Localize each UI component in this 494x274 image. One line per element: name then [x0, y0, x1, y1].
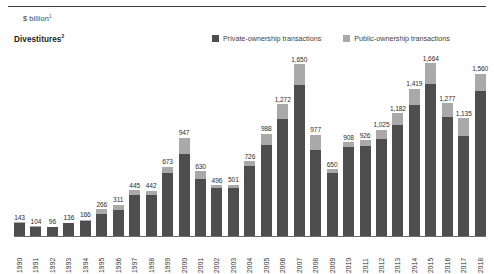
bar-column[interactable]: 104 [30, 52, 41, 237]
bar-stack[interactable] [228, 185, 239, 237]
x-axis-tick-label: 2009 [329, 239, 336, 273]
bar-segment-public[interactable] [277, 104, 288, 119]
bar-stack[interactable] [129, 190, 140, 237]
bar-segment-private[interactable] [261, 145, 272, 237]
bar-segment-private[interactable] [14, 223, 25, 237]
bar-segment-private[interactable] [228, 188, 239, 237]
bar-segment-public[interactable] [195, 171, 206, 179]
bar-segment-public[interactable] [310, 135, 321, 150]
bar-stack[interactable] [376, 130, 387, 237]
bar-column[interactable]: 501 [228, 52, 239, 237]
bar-segment-private[interactable] [211, 188, 222, 237]
bar-segment-private[interactable] [475, 91, 486, 237]
bar-segment-private[interactable] [425, 84, 436, 238]
bar-column[interactable]: 496 [211, 52, 222, 237]
bar-column[interactable]: 630 [195, 52, 206, 237]
bar-segment-private[interactable] [162, 173, 173, 237]
bar-column[interactable]: 650 [327, 52, 338, 237]
bar-stack[interactable] [277, 104, 288, 237]
bar-segment-private[interactable] [113, 210, 124, 237]
bar-stack[interactable] [195, 171, 206, 237]
bar-segment-public[interactable] [442, 103, 453, 116]
bar-stack[interactable] [211, 185, 222, 237]
bar-segment-private[interactable] [327, 173, 338, 237]
bar-stack[interactable] [475, 74, 486, 237]
bar-column[interactable]: 908 [343, 52, 354, 237]
bar-segment-private[interactable] [392, 125, 403, 237]
bar-column[interactable]: 143 [14, 52, 25, 237]
bar-segment-private[interactable] [442, 117, 453, 237]
bar-segment-private[interactable] [80, 221, 91, 237]
bar-segment-public[interactable] [425, 63, 436, 83]
bar-segment-public[interactable] [392, 113, 403, 124]
bar-stack[interactable] [442, 103, 453, 237]
bar-stack[interactable] [425, 63, 436, 237]
bar-stack[interactable] [327, 169, 338, 237]
bar-column[interactable]: 726 [244, 52, 255, 237]
bar-segment-private[interactable] [277, 119, 288, 237]
bar-column[interactable]: 1,272 [277, 52, 288, 237]
bar-column[interactable]: 1,650 [294, 52, 305, 237]
bar-stack[interactable] [14, 222, 25, 237]
bar-segment-private[interactable] [146, 195, 157, 237]
bar-column[interactable]: 136 [63, 52, 74, 237]
bar-segment-public[interactable] [376, 130, 387, 140]
bar-stack[interactable] [261, 134, 272, 237]
bar-segment-public[interactable] [162, 167, 173, 174]
bar-segment-private[interactable] [409, 105, 420, 237]
bar-stack[interactable] [80, 220, 91, 237]
bar-column[interactable]: 1,182 [392, 52, 403, 237]
bar-column[interactable]: 1,560 [475, 52, 486, 237]
bar-value-label: 143 [14, 214, 25, 221]
bar-segment-private[interactable] [195, 179, 206, 237]
bar-column[interactable]: 1,277 [442, 52, 453, 237]
bar-column[interactable]: 926 [360, 52, 371, 237]
bar-segment-public[interactable] [409, 89, 420, 105]
bar-segment-private[interactable] [376, 139, 387, 237]
bar-column[interactable]: 1,025 [376, 52, 387, 237]
bar-stack[interactable] [63, 223, 74, 237]
bar-column[interactable]: 166 [80, 52, 91, 237]
bar-column[interactable]: 96 [47, 52, 58, 237]
bar-stack[interactable] [310, 135, 321, 237]
bar-column[interactable]: 947 [179, 52, 190, 237]
bar-segment-private[interactable] [360, 146, 371, 237]
bar-column[interactable]: 442 [146, 52, 157, 237]
bar-stack[interactable] [294, 64, 305, 237]
bar-segment-private[interactable] [343, 147, 354, 237]
bar-segment-private[interactable] [179, 154, 190, 237]
bar-segment-private[interactable] [244, 166, 255, 237]
bar-segment-private[interactable] [63, 223, 74, 237]
bar-segment-private[interactable] [310, 150, 321, 237]
bar-stack[interactable] [113, 204, 124, 237]
bar-stack[interactable] [458, 118, 469, 237]
x-axis-tick-label: 2000 [181, 239, 188, 273]
bar-stack[interactable] [96, 209, 107, 237]
bar-column[interactable]: 1,664 [425, 52, 436, 237]
bar-segment-private[interactable] [294, 85, 305, 237]
bar-stack[interactable] [146, 191, 157, 237]
bar-stack[interactable] [244, 161, 255, 237]
bar-stack[interactable] [409, 89, 420, 237]
bar-column[interactable]: 445 [129, 52, 140, 237]
bar-segment-private[interactable] [458, 136, 469, 237]
bar-column[interactable]: 1,419 [409, 52, 420, 237]
bar-column[interactable]: 988 [261, 52, 272, 237]
bar-segment-public[interactable] [179, 138, 190, 154]
bar-segment-private[interactable] [96, 214, 107, 237]
bar-column[interactable]: 266 [96, 52, 107, 237]
bar-segment-public[interactable] [475, 74, 486, 91]
bar-segment-public[interactable] [458, 118, 469, 136]
bar-column[interactable]: 673 [162, 52, 173, 237]
bar-column[interactable]: 1,135 [458, 52, 469, 237]
bar-column[interactable]: 977 [310, 52, 321, 237]
bar-stack[interactable] [343, 142, 354, 237]
bar-column[interactable]: 311 [113, 52, 124, 237]
bar-segment-public[interactable] [261, 134, 272, 145]
bar-stack[interactable] [360, 140, 371, 237]
bar-stack[interactable] [392, 113, 403, 237]
bar-stack[interactable] [179, 138, 190, 237]
bar-segment-private[interactable] [129, 195, 140, 237]
bar-stack[interactable] [162, 167, 173, 237]
bar-segment-public[interactable] [294, 64, 305, 85]
